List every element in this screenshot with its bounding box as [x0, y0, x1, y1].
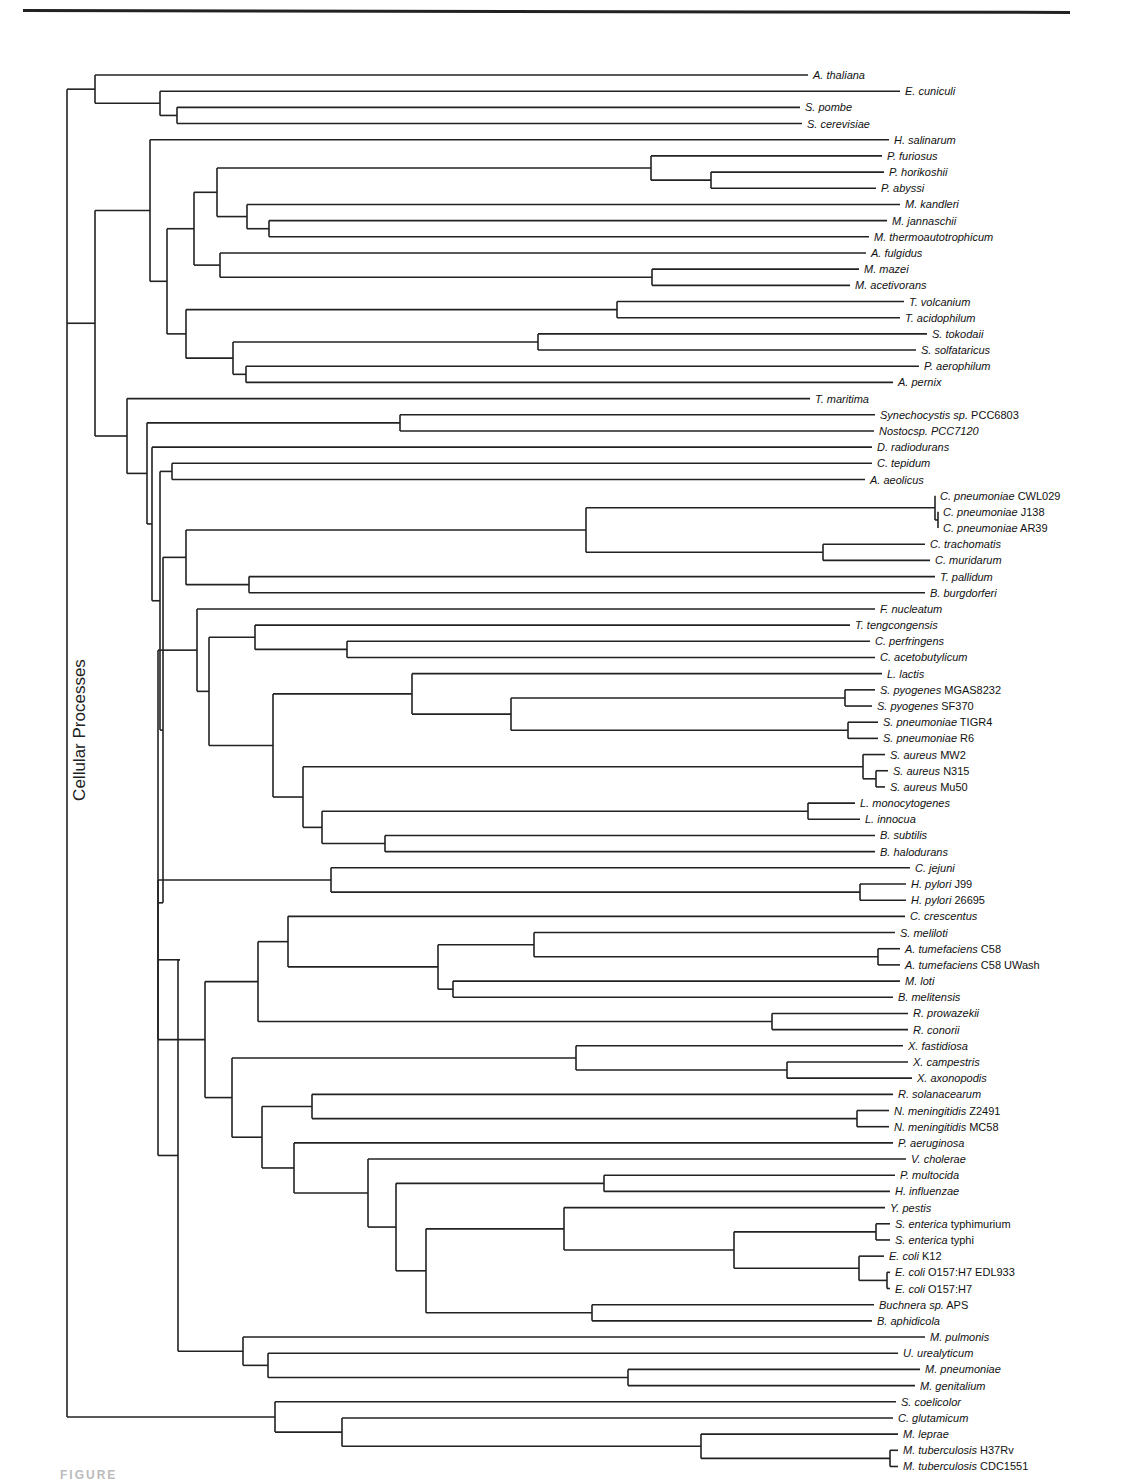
leaf-label: P. multocida — [900, 1169, 959, 1181]
leaf-label: M. pneumoniae — [925, 1363, 1001, 1375]
leaf-label: C. pneumoniae AR39 — [943, 522, 1048, 534]
leaf-label: C. perfringens — [875, 635, 945, 647]
dendrogram: A. thalianaE. cuniculiS. pombeS. cerevis… — [0, 0, 1130, 1482]
figure-caption: FIGURE — [60, 1468, 117, 1482]
leaf-label: L. monocytogenes — [860, 797, 950, 809]
leaf-label: S. tokodaii — [932, 328, 984, 340]
leaf-label: M. leprae — [903, 1428, 949, 1440]
leaf-label: A. tumefaciens C58 — [904, 943, 1001, 955]
leaf-label: C. crescentus — [910, 910, 978, 922]
leaf-label: S. aureus Mu50 — [890, 781, 968, 793]
leaf-label: D. radiodurans — [877, 441, 950, 453]
leaf-label: C. muridarum — [935, 554, 1002, 566]
leaf-label: T. maritima — [815, 393, 869, 405]
leaf-label: C. jejuni — [915, 862, 955, 874]
leaf-label: S. pyogenes MGAS8232 — [880, 684, 1001, 696]
leaf-label: B. aphidicola — [877, 1315, 940, 1327]
leaf-label: M. kandleri — [905, 198, 959, 210]
leaf-label: P. aeruginosa — [898, 1137, 964, 1149]
leaf-label: S. meliloti — [900, 927, 948, 939]
leaf-label: T. volcanium — [909, 296, 970, 308]
leaf-label: P. furiosus — [887, 150, 938, 162]
leaf-label: C. tepidum — [877, 457, 930, 469]
leaf-label: V. cholerae — [911, 1153, 966, 1165]
leaf-label: M. pulmonis — [930, 1331, 990, 1343]
leaf-label: S. pombe — [805, 101, 852, 113]
leaf-label: Buchnera sp. APS — [879, 1299, 968, 1311]
leaf-label: M. tuberculosis CDC1551 — [903, 1460, 1028, 1472]
leaf-label: S. coelicolor — [901, 1396, 962, 1408]
leaf-label: M. loti — [905, 975, 935, 987]
leaf-label: Y. pestis — [890, 1202, 932, 1214]
leaf-label: H. pylori 26695 — [911, 894, 985, 906]
leaf-label: M. jannaschii — [892, 215, 957, 227]
leaf-label: T. tengcongensis — [855, 619, 938, 631]
leaf-label: Synechocystis sp. PCC6803 — [880, 409, 1019, 421]
leaf-label: E. coli K12 — [889, 1250, 942, 1262]
leaf-label: T. pallidum — [940, 571, 993, 583]
leaf-label: E. cuniculi — [905, 85, 956, 97]
leaf-label: X. campestris — [912, 1056, 980, 1068]
leaf-label: H. influenzae — [895, 1185, 959, 1197]
leaf-label: M. mazei — [864, 263, 909, 275]
leaf-label: C. pneumoniae CWL029 — [940, 490, 1060, 502]
leaf-label: A. pernix — [897, 376, 942, 388]
leaf-label: U. urealyticum — [903, 1347, 973, 1359]
leaf-label: P. abyssi — [881, 182, 925, 194]
leaf-label: C. trachomatis — [930, 538, 1001, 550]
leaf-label: B. burgdorferi — [930, 587, 997, 599]
leaf-label: S. enterica typhi — [895, 1234, 974, 1246]
leaf-label: Nostocsp. PCC7120 — [879, 425, 980, 437]
leaf-label: R. conorii — [913, 1024, 960, 1036]
leaf-label: S. solfataricus — [921, 344, 991, 356]
leaf-label: M. acetivorans — [855, 279, 927, 291]
leaf-label: H. salinarum — [894, 134, 956, 146]
leaf-label: A. aeolicus — [869, 474, 924, 486]
leaf-label: S. aureus N315 — [893, 765, 969, 777]
leaf-label: A. thaliana — [812, 69, 865, 81]
leaf-label: A. fulgidus — [870, 247, 923, 259]
leaf-label: M. genitalium — [920, 1380, 985, 1392]
leaf-label: T. acidophilum — [905, 312, 976, 324]
leaf-label: S. pneumoniae TIGR4 — [883, 716, 992, 728]
leaf-label: R. prowazekii — [913, 1007, 980, 1019]
leaf-label: C. pneumoniae J138 — [943, 506, 1045, 518]
leaf-label: F. nucleatum — [880, 603, 942, 615]
leaf-label: M. thermoautotrophicum — [874, 231, 993, 243]
leaf-label: N. meningitidis Z2491 — [894, 1105, 1000, 1117]
leaf-label: P. horikoshii — [889, 166, 948, 178]
leaf-label: E. coli O157:H7 — [895, 1283, 972, 1295]
leaf-label: L. lactis — [887, 668, 925, 680]
leaf-label: M. tuberculosis H37Rv — [903, 1444, 1014, 1456]
leaf-label: A. tumefaciens C58 UWash — [904, 959, 1040, 971]
leaf-label: B. melitensis — [898, 991, 961, 1003]
leaf-label: S. cerevisiae — [807, 118, 870, 130]
leaf-label: X. axonopodis — [916, 1072, 987, 1084]
leaf-label: P. aerophilum — [924, 360, 990, 372]
leaf-label: E. coli O157:H7 EDL933 — [895, 1266, 1015, 1278]
leaf-label: S. pneumoniae R6 — [883, 732, 974, 744]
leaf-label: C. acetobutylicum — [880, 651, 967, 663]
leaf-label: N. meningitidis MC58 — [894, 1121, 999, 1133]
leaf-label: C. glutamicum — [898, 1412, 968, 1424]
leaf-label: S. enterica typhimurium — [895, 1218, 1011, 1230]
leaf-label: S. aureus MW2 — [890, 749, 966, 761]
leaf-label: B. subtilis — [880, 829, 928, 841]
leaf-label: R. solanacearum — [898, 1088, 981, 1100]
leaf-label: S. pyogenes SF370 — [877, 700, 974, 712]
leaf-label: X. fastidiosa — [907, 1040, 968, 1052]
leaf-label: L. innocua — [865, 813, 916, 825]
leaf-label: B. halodurans — [880, 846, 948, 858]
leaf-label: H. pylori J99 — [911, 878, 972, 890]
